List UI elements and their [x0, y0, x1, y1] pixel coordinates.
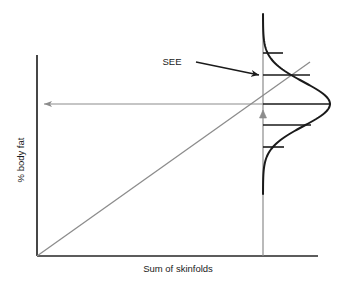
see-label: SEE [162, 56, 181, 67]
y-axis-label: % body fat [15, 137, 26, 182]
x-axis-label: Sum of skinfolds [143, 263, 213, 274]
diagram-canvas: SEE Sum of skinfolds % body fat [0, 0, 356, 283]
see-annotation-arrow [196, 62, 259, 75]
regression-line [37, 62, 310, 256]
sd-tick-group [263, 53, 331, 147]
mean-marker-triangle [260, 110, 267, 118]
figure-container: SEE Sum of skinfolds % body fat [0, 0, 356, 283]
